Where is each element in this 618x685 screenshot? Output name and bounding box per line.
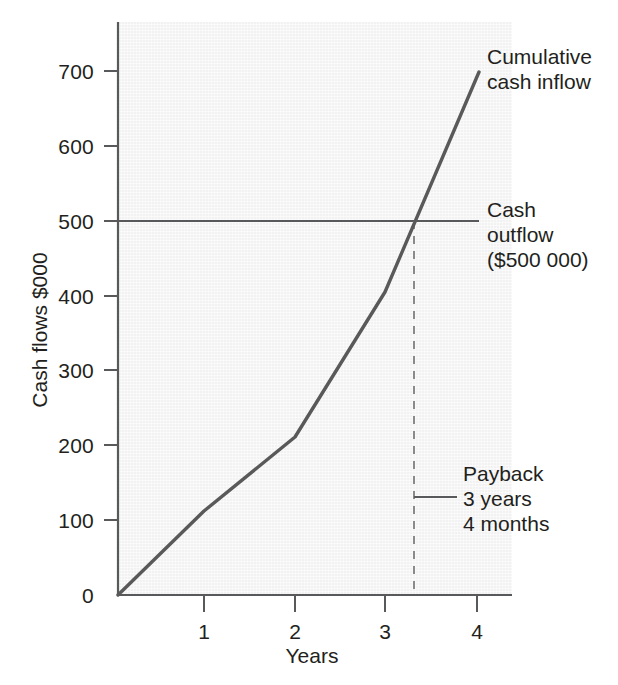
y-axis-title: Cash flows $000 [28,220,52,440]
ytick-label-100: 100 [24,510,94,531]
x-axis-ticks [204,595,477,612]
xtick-label-1: 1 [184,621,224,642]
x-axis-title: Years [232,644,392,668]
annotation-payback: Payback 3 years 4 months [463,461,549,536]
annotation-cash-outflow: Cash outflow ($500 000) [487,197,589,272]
cumulative-cash-inflow-line [118,72,479,595]
y-axis-ticks [104,71,118,520]
xtick-label-3: 3 [365,621,405,642]
ytick-label-600: 600 [24,136,94,157]
ytick-label-0: 0 [24,585,94,606]
ytick-label-700: 700 [24,61,94,82]
xtick-label-2: 2 [275,621,315,642]
annotation-cumulative-cash-inflow: Cumulative cash inflow [487,44,592,94]
xtick-label-4: 4 [457,621,497,642]
payback-period-chart: 700 600 500 400 300 200 100 0 1 2 3 4 Ye… [0,0,618,685]
chart-vector-layer [0,0,618,685]
